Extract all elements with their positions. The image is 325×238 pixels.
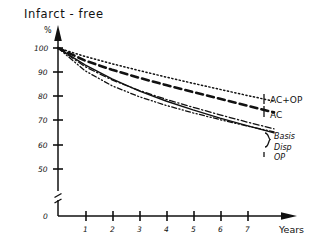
x-tick-label-3: 3 bbox=[137, 225, 142, 234]
x-axis-title: Years bbox=[278, 224, 304, 235]
data-curves bbox=[58, 48, 274, 133]
x-tick-label-1: 1 bbox=[83, 225, 88, 234]
legend-label-op: OP bbox=[274, 153, 285, 162]
y-tick-label-100: 100 bbox=[34, 44, 49, 53]
y-tick-label-50: 50 bbox=[38, 165, 48, 174]
y-tick-label-80: 80 bbox=[38, 92, 48, 101]
y-axis-unit-label: % bbox=[44, 26, 52, 35]
legend-label-ac: AC bbox=[270, 110, 282, 120]
chart-title: Infarct - free bbox=[24, 7, 104, 21]
chart-container: Infarct - free % 100 90 80 70 60 50 bbox=[0, 0, 325, 238]
x-tick-label-5: 5 bbox=[191, 225, 196, 234]
legend-label-disp: Disp bbox=[274, 143, 292, 152]
curve-basis bbox=[58, 48, 274, 129]
survival-curve-chart: Infarct - free % 100 90 80 70 60 50 bbox=[0, 0, 325, 238]
legend-label-ac-op: AC+OP bbox=[270, 95, 303, 105]
x-tick-label-7: 7 bbox=[245, 225, 250, 234]
y-tick-label-0: 0 bbox=[43, 212, 48, 221]
x-axis bbox=[58, 212, 297, 220]
y-axis-break-icon bbox=[55, 194, 62, 204]
x-tick-label-2: 2 bbox=[110, 225, 115, 234]
x-tick-label-6: 6 bbox=[218, 225, 223, 234]
y-tick-label-60: 60 bbox=[38, 141, 48, 150]
y-axis-arrow-icon bbox=[54, 25, 62, 41]
curve-disp bbox=[58, 48, 274, 132]
y-tick-label-90: 90 bbox=[38, 68, 48, 77]
y-tick-label-70: 70 bbox=[38, 116, 48, 125]
legend-label-basis: Basis bbox=[274, 132, 295, 141]
x-tick-label-4: 4 bbox=[164, 225, 169, 234]
x-axis-arrow-icon bbox=[281, 212, 297, 220]
curve-ac-op bbox=[58, 48, 274, 101]
